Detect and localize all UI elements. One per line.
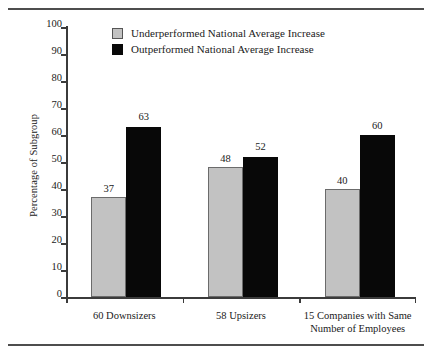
y-axis-label: Percentage of Subgroup (28, 86, 39, 246)
plot-area: 0102030405060708090100 376348524060 60 D… (66, 27, 416, 297)
bar-value-label: 63 (139, 112, 150, 123)
y-tick-label: 80 (52, 73, 63, 84)
legend-label: Underperformed National Average Increase (131, 27, 325, 39)
x-tick-mark (66, 298, 68, 303)
bar-value-label: 37 (104, 184, 115, 195)
bar-underperformed-3[interactable]: 40 (325, 189, 360, 297)
x-tick-mark (299, 298, 301, 303)
bar-outperformed-3[interactable]: 60 (360, 135, 395, 297)
y-tick-label: 100 (46, 19, 62, 30)
bar-underperformed-1[interactable]: 37 (91, 197, 126, 297)
x-tick-mark (183, 298, 185, 303)
y-tick-label: 0 (57, 289, 62, 300)
y-tick-label: 40 (52, 181, 63, 192)
y-tick-label: 70 (52, 100, 63, 111)
bar-value-label: 48 (220, 154, 231, 165)
y-tick-label: 20 (52, 235, 63, 246)
y-tick-label: 60 (52, 127, 63, 138)
y-tick-label: 30 (52, 208, 63, 219)
legend-label: Outperformed National Average Increase (131, 43, 314, 55)
x-category-label-line: Number of Employees (287, 322, 428, 335)
y-tick-label: 10 (52, 262, 63, 273)
x-tick-mark (415, 298, 417, 303)
x-axis-line (66, 297, 416, 299)
bar-value-label: 60 (372, 121, 383, 132)
legend-swatch-under (112, 28, 123, 39)
bar-outperformed-2[interactable]: 52 (243, 157, 278, 297)
legend-item-2[interactable]: Outperformed National Average Increase (112, 41, 325, 57)
chart-legend: Underperformed National Average Increase… (112, 25, 325, 57)
bar-underperformed-2[interactable]: 48 (208, 167, 243, 297)
x-category-label-3: 15 Companies with SameNumber of Employee… (287, 309, 428, 335)
y-axis-line (66, 26, 68, 297)
bar-chart-figure: Percentage of Subgroup 01020304050607080… (0, 0, 432, 357)
bar-outperformed-1[interactable]: 63 (126, 127, 161, 297)
legend-swatch-over (112, 44, 123, 55)
y-tick-label: 50 (52, 154, 63, 165)
y-tick-label: 90 (52, 46, 63, 57)
legend-item-1[interactable]: Underperformed National Average Increase (112, 25, 325, 41)
x-category-label-line: 15 Companies with Same (287, 309, 428, 322)
bar-value-label: 52 (255, 142, 266, 153)
bar-value-label: 40 (337, 176, 348, 187)
